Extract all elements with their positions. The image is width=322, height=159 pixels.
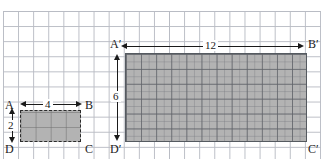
small-rectangle-abcd: [20, 110, 81, 142]
corner-label-b: B: [85, 99, 93, 111]
corner-label-d-prime: D′: [110, 143, 121, 155]
large-rectangle-abcd-prime: [125, 53, 307, 142]
arrow-down-icon-large-height: [114, 135, 120, 141]
graph-paper-top-edge: [3, 11, 321, 12]
arrow-up-icon-large-height: [114, 54, 120, 60]
dimension-label-small-height: 2: [6, 120, 16, 131]
arrow-left-icon-large-width: [121, 43, 127, 49]
corner-label-c-prime: C′: [308, 143, 319, 155]
arrow-right-icon-large-width: [298, 43, 304, 49]
arrow-right-icon-small-width: [76, 101, 82, 107]
rectangle-dilation-figure: A B C D 4 2 A′ B′ C′ D′ 12 6: [0, 0, 322, 159]
corner-label-a-prime: A′: [110, 38, 121, 50]
corner-label-d: D: [5, 143, 14, 155]
dimension-label-large-width: 12: [203, 40, 218, 51]
arrow-up-icon-small-height: [9, 108, 15, 114]
small-rectangle-inner-grid: [21, 111, 80, 141]
arrow-left-icon-small-width: [20, 101, 26, 107]
corner-label-c: C: [85, 143, 93, 155]
arrow-down-icon-small-height: [9, 137, 15, 143]
dimension-label-small-width: 4: [43, 99, 53, 110]
large-rectangle-coarse-grid: [126, 54, 306, 141]
dimension-label-large-height: 6: [111, 91, 121, 102]
corner-label-b-prime: B′: [308, 38, 319, 50]
